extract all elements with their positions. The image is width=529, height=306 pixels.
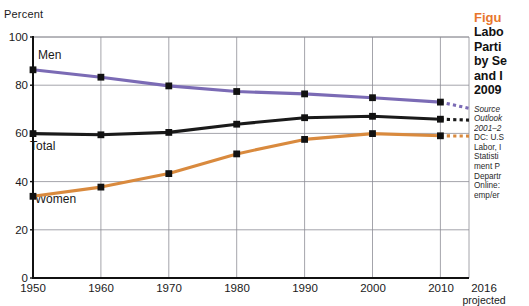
figure-title-line: Parti xyxy=(474,40,529,55)
gridlines xyxy=(33,37,469,278)
chart-figure: Percent 100 80 60 40 20 0 1950 1960 1970… xyxy=(0,0,470,305)
source-line: 2001–2 xyxy=(474,124,529,134)
source-line: Online: xyxy=(474,181,529,191)
figure-title: LaboPartiby Seand I2009 xyxy=(474,25,529,98)
plot-canvas xyxy=(0,0,470,305)
source-line: Statisti xyxy=(474,152,529,162)
source-line: Source xyxy=(474,105,529,115)
figure-title-line: and I xyxy=(474,69,529,84)
figure-source-note: SourceOutlook2001–2DC: U.SLabor, IStatis… xyxy=(474,105,529,201)
figure-kicker: Figu xyxy=(474,10,529,25)
source-line: Departr xyxy=(474,172,529,182)
figure-title-line: 2009 xyxy=(474,83,529,98)
figure-caption-block: Figu LaboPartiby Seand I2009 SourceOutlo… xyxy=(474,10,529,300)
source-line: DC: U.S xyxy=(474,133,529,143)
source-line: ment P xyxy=(474,162,529,172)
figure-title-line: Labo xyxy=(474,25,529,40)
source-line: emp/er xyxy=(474,191,529,201)
figure-title-line: by Se xyxy=(474,54,529,69)
axis-lines xyxy=(30,36,469,278)
source-line: Labor, I xyxy=(474,143,529,153)
source-line: Outlook xyxy=(474,114,529,124)
